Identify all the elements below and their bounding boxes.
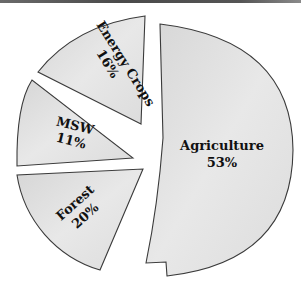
pie-chart: Agriculture 53% Forest 20% MSW 11% Energ… <box>0 0 301 286</box>
slice-agriculture: Agriculture 53% <box>146 24 293 276</box>
label-agriculture-pct: 53% <box>207 155 238 170</box>
label-agriculture-name: Agriculture <box>179 138 264 153</box>
